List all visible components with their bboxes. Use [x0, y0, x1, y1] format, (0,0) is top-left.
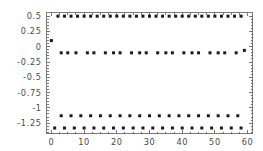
data-point	[128, 15, 131, 18]
data-point	[83, 15, 86, 18]
scatter-data-points	[50, 15, 246, 130]
data-point	[115, 15, 118, 18]
y-tick-label: -0.75	[17, 88, 41, 98]
data-point	[141, 15, 144, 18]
data-point	[89, 114, 92, 117]
data-point	[92, 51, 95, 54]
data-point	[109, 114, 112, 117]
data-point	[112, 51, 115, 54]
data-point	[112, 127, 115, 130]
data-point	[156, 51, 159, 54]
data-point	[217, 114, 220, 117]
data-point	[174, 15, 177, 18]
series-band-bottom	[53, 127, 242, 130]
data-point	[223, 51, 226, 54]
data-point	[148, 114, 151, 117]
data-point	[132, 127, 135, 130]
x-tick-label: 60	[242, 137, 254, 147]
data-point	[119, 51, 122, 54]
data-point	[236, 114, 239, 117]
x-axis-tick-labels: 0102030405060	[48, 137, 253, 147]
series-band-lower	[60, 114, 240, 117]
data-point	[122, 127, 125, 130]
y-tick-label: -1	[32, 103, 41, 113]
data-point	[181, 127, 184, 130]
data-point	[60, 51, 63, 54]
data-point	[151, 127, 154, 130]
data-point	[171, 51, 174, 54]
data-point	[220, 127, 223, 130]
data-point	[200, 127, 203, 130]
data-point	[168, 15, 171, 18]
data-point	[135, 15, 138, 18]
data-point	[220, 15, 223, 18]
y-axis-tick-labels: 0.50.250-0.25-0.5-0.75-1-1.25	[17, 11, 41, 128]
scatter-plot-figure: 0.50.250-0.25-0.5-0.75-1-1.25 0102030405…	[0, 0, 263, 151]
data-point	[207, 114, 210, 117]
x-tick-label: 20	[111, 137, 123, 147]
data-point	[60, 114, 63, 117]
data-point	[130, 51, 133, 54]
data-point	[240, 127, 243, 130]
data-point	[79, 114, 82, 117]
data-point	[92, 127, 95, 130]
y-tick-label: 0	[36, 42, 42, 52]
data-point	[141, 127, 144, 130]
data-point	[171, 127, 174, 130]
y-tick-label: 0.25	[21, 26, 42, 36]
data-point	[50, 39, 53, 42]
data-point	[122, 15, 125, 18]
data-point	[161, 15, 164, 18]
data-point	[187, 15, 190, 18]
data-point	[73, 127, 76, 130]
x-tick-label: 50	[209, 137, 221, 147]
data-point	[138, 114, 141, 117]
data-point	[230, 127, 233, 130]
data-point	[102, 15, 105, 18]
data-point	[119, 114, 122, 117]
y-tick-label: -1.25	[17, 118, 41, 128]
data-point	[200, 15, 203, 18]
data-point	[74, 51, 77, 54]
data-point	[76, 15, 79, 18]
data-point	[226, 15, 229, 18]
data-point	[208, 51, 211, 54]
data-point	[109, 15, 112, 18]
data-point	[128, 114, 131, 117]
data-point	[161, 127, 164, 130]
series-band-upper	[56, 15, 242, 18]
data-point	[158, 114, 161, 117]
data-point	[53, 127, 56, 130]
data-point	[63, 127, 66, 130]
x-tick-label: 40	[176, 137, 188, 147]
data-point	[89, 15, 92, 18]
y-tick-label: -0.25	[17, 57, 41, 67]
data-point	[207, 15, 210, 18]
data-point	[86, 51, 89, 54]
data-point	[240, 15, 243, 18]
data-point	[191, 127, 194, 130]
data-point	[145, 51, 148, 54]
data-point	[182, 51, 185, 54]
x-tick-label: 30	[144, 137, 156, 147]
data-point	[210, 127, 213, 130]
data-point	[56, 15, 59, 18]
plot-canvas: 0.50.250-0.25-0.5-0.75-1-1.25 0102030405…	[0, 0, 263, 151]
y-tick-label: -0.5	[23, 72, 41, 82]
data-point	[243, 49, 246, 52]
series-band-middle	[60, 49, 246, 54]
data-point	[104, 51, 107, 54]
data-point	[148, 15, 151, 18]
data-point	[99, 114, 102, 117]
data-point	[197, 51, 200, 54]
data-point	[197, 114, 200, 117]
series-origin-outlier	[50, 39, 53, 42]
data-point	[177, 114, 180, 117]
data-point	[213, 15, 216, 18]
data-point	[66, 51, 69, 54]
data-point	[63, 15, 66, 18]
data-point	[102, 127, 105, 130]
x-tick-label: 0	[48, 137, 54, 147]
data-point	[235, 51, 238, 54]
data-point	[194, 15, 197, 18]
